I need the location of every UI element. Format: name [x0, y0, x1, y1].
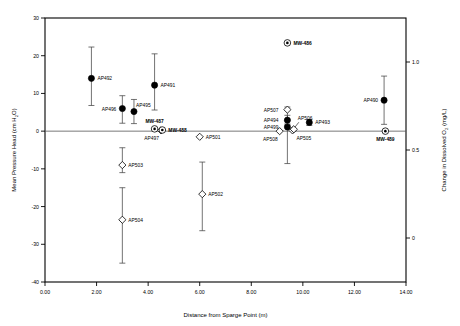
point-label-ap493: AP493: [315, 120, 330, 125]
marker-circle-dot-center: [161, 129, 164, 132]
marker-open-diamond: [196, 133, 203, 140]
marker-filled-circle: [119, 105, 125, 111]
point-label-ap502: AP502: [208, 192, 223, 197]
x-axis-title: Distance from Sparge Point (m): [183, 312, 267, 318]
x-tick-label: 8.00: [246, 289, 256, 295]
x-tick-label: 6.00: [195, 289, 205, 295]
x-tick-label: 2.00: [92, 289, 102, 295]
point-label-ap494: AP494: [264, 118, 279, 123]
marker-open-diamond: [199, 191, 206, 198]
plot-frame-layer: [45, 18, 406, 282]
marker-circle-dot-center: [286, 42, 289, 45]
x-tick-label: 12.00: [348, 289, 361, 295]
point-label-ap495: AP495: [136, 103, 151, 108]
y-tick-label: 10: [33, 90, 39, 96]
marker-filled-circle: [131, 108, 137, 114]
point-label-ap505: AP505: [297, 136, 312, 141]
y-tick-label: -10: [32, 166, 40, 172]
error-bars-layer: [88, 47, 387, 263]
point-label-mw-488: MW-488: [168, 128, 187, 133]
scatter-plot-svg: 0.002.004.006.008.0010.0012.0014.0030201…: [0, 0, 460, 326]
axis-ticks-layer: 0.002.004.006.008.0010.0012.0014.0030201…: [32, 15, 420, 295]
y-tick-label: 0: [36, 128, 39, 134]
point-label-ap506: AP506: [298, 116, 313, 121]
x-tick-label: 0.00: [40, 289, 50, 295]
point-label-ap503: AP503: [128, 163, 143, 168]
point-label-mw-487: MW-487: [145, 119, 164, 124]
y-tick-label: -20: [32, 204, 40, 210]
y-tick-label: -30: [32, 241, 40, 247]
y-tick-label: 20: [33, 53, 39, 59]
x-tick-label: 4.00: [143, 289, 153, 295]
marker-open-diamond: [119, 161, 126, 168]
marker-filled-circle: [88, 75, 94, 81]
point-label-ap508: AP508: [263, 137, 278, 142]
y-axis-right-title: Change in Dissolved O2 (mg/L): [441, 109, 449, 192]
marker-circle-dot-center: [153, 128, 156, 131]
point-label-ap499: AP499: [264, 125, 279, 130]
point-labels-layer: AP492AP496AP495AP491AP494AP499AP493AP490…: [97, 41, 394, 223]
y-right-tick-label: 0.5: [412, 147, 419, 153]
point-label-ap490: AP490: [363, 98, 378, 103]
point-label-ap501: AP501: [206, 135, 221, 140]
point-label-ap492: AP492: [97, 76, 112, 81]
plot-area-border: [45, 18, 406, 282]
marker-filled-circle: [151, 82, 157, 88]
point-label-ap507: AP507: [264, 108, 279, 113]
x-tick-label: 14.00: [400, 289, 413, 295]
marker-circle-dot-center: [384, 130, 387, 133]
y-right-tick-label: 1.0: [412, 59, 419, 65]
marker-filled-circle: [381, 97, 387, 103]
y-axis-title: Mean Pressure Head (cm H2O): [11, 108, 19, 191]
y-tick-label: -40: [32, 279, 40, 285]
x-tick-label: 10.00: [296, 289, 309, 295]
chart-figure: 0.002.004.006.008.0010.0012.0014.0030201…: [0, 0, 460, 326]
point-label-ap491: AP491: [161, 83, 176, 88]
point-label-ap497: AP497: [144, 136, 159, 141]
marker-open-diamond: [119, 216, 126, 223]
point-label-ap504: AP504: [128, 218, 143, 223]
point-label-mw-489: MW-489: [376, 137, 395, 142]
y-right-tick-label: 0: [412, 235, 415, 241]
label-leader-line: [295, 122, 299, 127]
y-tick-label: 30: [33, 15, 39, 21]
point-label-ap496: AP496: [102, 107, 117, 112]
marker-filled-circle: [284, 117, 290, 123]
marker-filled-circle: [284, 124, 290, 130]
point-label-mw-486: MW-486: [293, 41, 312, 46]
